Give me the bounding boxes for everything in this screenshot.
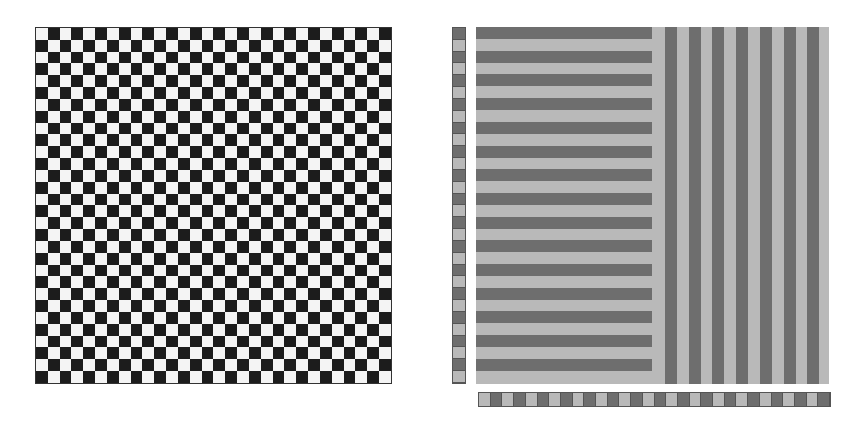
checker-square xyxy=(284,75,296,87)
checker-square xyxy=(119,205,131,217)
checker-square xyxy=(320,371,332,383)
checker-square xyxy=(48,217,60,229)
checker-square xyxy=(60,28,72,40)
strip-cell xyxy=(725,393,737,406)
checker-square xyxy=(71,324,83,336)
checker-square xyxy=(36,336,48,348)
checker-square xyxy=(355,182,367,194)
checker-square xyxy=(332,40,344,52)
checker-square xyxy=(154,87,166,99)
checker-square xyxy=(119,87,131,99)
strip-cell xyxy=(453,324,465,336)
checker-square xyxy=(190,288,202,300)
checker-square xyxy=(95,253,107,265)
checker-square xyxy=(249,111,261,123)
checker-square xyxy=(60,182,72,194)
checker-square xyxy=(261,182,273,194)
checker-square xyxy=(178,241,190,253)
checker-square xyxy=(249,276,261,288)
checker-square xyxy=(213,75,225,87)
checker-square xyxy=(95,288,107,300)
checker-square xyxy=(284,111,296,123)
checker-square xyxy=(142,347,154,359)
strip-cell xyxy=(795,393,807,406)
strip-cell xyxy=(453,217,465,229)
strip-cell xyxy=(453,63,465,75)
checker-square xyxy=(344,123,356,135)
checker-square xyxy=(308,75,320,87)
checker-square xyxy=(367,52,379,64)
checker-square xyxy=(308,371,320,383)
checker-square xyxy=(190,359,202,371)
checker-square xyxy=(202,134,214,146)
checker-square xyxy=(261,312,273,324)
checker-square xyxy=(60,217,72,229)
strip-cell xyxy=(643,393,655,406)
checker-square xyxy=(249,347,261,359)
checker-square xyxy=(119,194,131,206)
checker-square xyxy=(273,347,285,359)
checker-square xyxy=(379,28,391,40)
checker-square xyxy=(308,347,320,359)
checker-square xyxy=(178,40,190,52)
checker-square xyxy=(131,288,143,300)
checker-square xyxy=(284,182,296,194)
checker-square xyxy=(308,276,320,288)
checker-square xyxy=(107,194,119,206)
checker-square xyxy=(95,146,107,158)
checker-square xyxy=(344,63,356,75)
checker-square xyxy=(237,276,249,288)
checker-square xyxy=(296,123,308,135)
checker-square xyxy=(320,347,332,359)
checker-square xyxy=(190,146,202,158)
checker-square xyxy=(261,288,273,300)
checker-square xyxy=(36,324,48,336)
checker-square xyxy=(202,40,214,52)
checker-square xyxy=(225,312,237,324)
checker-square xyxy=(178,312,190,324)
checker-square xyxy=(166,134,178,146)
checker-square xyxy=(367,28,379,40)
checker-square xyxy=(284,205,296,217)
checker-square xyxy=(296,182,308,194)
checker-square xyxy=(202,170,214,182)
checker-square xyxy=(261,28,273,40)
checker-square xyxy=(213,63,225,75)
strip-cell xyxy=(453,194,465,206)
checker-square xyxy=(154,253,166,265)
checker-square xyxy=(379,229,391,241)
checker-square xyxy=(237,134,249,146)
checker-square xyxy=(284,347,296,359)
checker-square xyxy=(142,134,154,146)
checker-square xyxy=(131,111,143,123)
checker-square xyxy=(308,288,320,300)
checker-square xyxy=(379,217,391,229)
checker-square xyxy=(154,170,166,182)
checker-square xyxy=(154,217,166,229)
checker-square xyxy=(83,28,95,40)
checker-square xyxy=(142,194,154,206)
checker-square xyxy=(367,194,379,206)
checker-square xyxy=(48,288,60,300)
checker-square xyxy=(344,205,356,217)
checker-square xyxy=(332,324,344,336)
checker-square xyxy=(296,359,308,371)
checker-square xyxy=(178,217,190,229)
checker-square xyxy=(83,359,95,371)
checker-square xyxy=(178,359,190,371)
checker-square xyxy=(202,123,214,135)
checker-square xyxy=(142,170,154,182)
checker-square xyxy=(202,99,214,111)
checker-square xyxy=(332,312,344,324)
checker-square xyxy=(273,205,285,217)
checker-square xyxy=(83,87,95,99)
checker-square xyxy=(154,312,166,324)
checker-square xyxy=(107,87,119,99)
checker-square xyxy=(332,134,344,146)
checker-square xyxy=(296,134,308,146)
checker-square xyxy=(154,276,166,288)
checker-square xyxy=(320,182,332,194)
checker-square xyxy=(237,265,249,277)
checker-square xyxy=(296,347,308,359)
checker-square xyxy=(332,75,344,87)
